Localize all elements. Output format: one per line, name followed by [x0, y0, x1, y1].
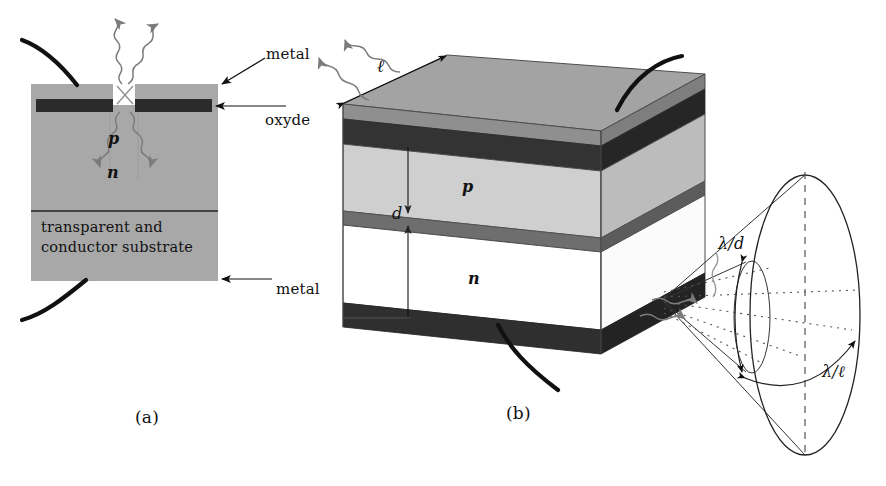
label-p-layer-b: p: [462, 178, 473, 196]
caption-panel-a: (a): [135, 408, 159, 427]
label-metal-bottom: metal: [276, 281, 320, 298]
label-n-layer-a: n: [107, 164, 119, 182]
panel-a-group: [22, 19, 286, 320]
leader-metal-top: [222, 58, 265, 84]
oxide-bar-left: [36, 99, 113, 112]
panel-b-group: [319, 40, 705, 390]
oxide-bar-right: [135, 99, 212, 112]
label-substrate-line1: transparent and: [41, 218, 163, 238]
photon-emit-3: [712, 252, 718, 297]
photon-out-b-2: [345, 40, 400, 72]
label-p-layer-a: p: [108, 130, 119, 148]
dotted-ray-3: [664, 308, 800, 356]
caption-panel-b: (b): [506, 404, 531, 423]
panel-a-lead-bottom: [22, 280, 86, 320]
label-active-thickness: d: [392, 205, 402, 223]
divergence-arc-vertical: [735, 262, 742, 372]
label-metal-top: metal: [266, 46, 310, 63]
label-oxyde: oxyde: [265, 112, 310, 129]
label-cavity-length: ℓ: [377, 57, 384, 76]
label-horizontal-divergence: λ/ℓ: [822, 363, 845, 381]
photon-out-a-1: [114, 19, 122, 84]
label-substrate-line2: conductor substrate: [41, 238, 193, 258]
figure-root: metal oxyde metal p n transparent and co…: [0, 0, 886, 486]
photon-out-a-2: [128, 24, 158, 84]
panel-a-lead-top: [22, 40, 77, 85]
photon-out-b-1: [319, 58, 369, 100]
cone-near-rim-lower: [662, 300, 746, 372]
label-vertical-divergence: λ/d: [718, 235, 744, 253]
label-n-layer-b: n: [468, 270, 480, 288]
